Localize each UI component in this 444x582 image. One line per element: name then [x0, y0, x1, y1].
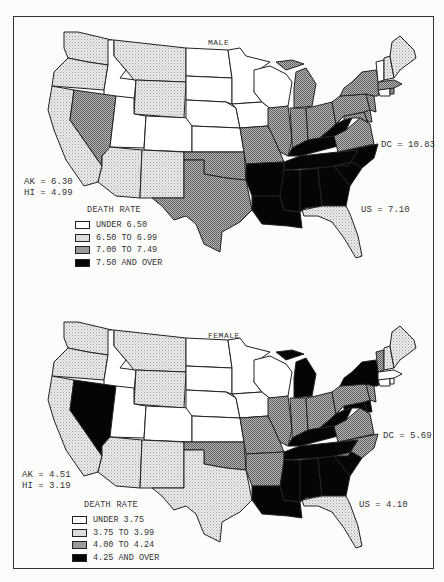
female-legend-item-3: 4.00 TO 4.24 [72, 539, 159, 552]
legend-label: 4.00 TO 4.24 [93, 540, 154, 550]
state-ND [186, 48, 232, 78]
female-legend-title: DEATH RATE [84, 500, 159, 510]
male-legend-item-3: 7.00 TO 7.49 [75, 244, 162, 257]
state-NY [340, 70, 380, 96]
legend-label: UNDER 3.75 [93, 515, 144, 525]
legend-swatch-icon [72, 554, 87, 562]
state-FL [302, 206, 362, 258]
state-KS [192, 416, 244, 442]
legend-label: 4.25 AND OVER [93, 553, 159, 563]
state-MT [114, 330, 186, 372]
state-MS [280, 460, 300, 502]
state-ND [186, 338, 232, 368]
state-VT [376, 60, 384, 82]
male-legend-title: DEATH RATE [87, 205, 162, 215]
legend-swatch-icon [75, 221, 90, 229]
female-ak-note: AK = 4.51 [22, 470, 71, 481]
legend-label: 7.50 AND OVER [96, 258, 162, 268]
state-VT [376, 350, 384, 372]
legend-swatch-icon [72, 541, 87, 549]
legend-label: UNDER 6.50 [96, 220, 147, 230]
female-legend-item-2: 3.75 TO 3.99 [72, 527, 159, 540]
female-hi-note: HI = 3.19 [22, 481, 71, 492]
state-NM [140, 150, 184, 198]
state-ME [390, 326, 416, 368]
male-ak-note: AK = 6.30 [24, 177, 73, 188]
legend-label: 6.50 TO 6.99 [96, 233, 157, 243]
state-MT [114, 40, 186, 82]
female-dc-note: DC = 5.69 [383, 431, 432, 442]
state-WY [134, 370, 186, 408]
legend-swatch-icon [75, 234, 90, 242]
state-MS [280, 170, 300, 212]
state-MA [378, 370, 402, 380]
female-legend: DEATH RATE UNDER 3.75 3.75 TO 3.99 4.00 … [72, 500, 159, 564]
male-legend-item-1: UNDER 6.50 [75, 219, 162, 232]
female-map-title: FEMALE [208, 331, 240, 340]
state-WY [134, 80, 186, 118]
female-legend-item-1: UNDER 3.75 [72, 514, 159, 527]
legend-swatch-icon [72, 529, 87, 537]
legend-label: 7.00 TO 7.49 [96, 245, 157, 255]
female-legend-item-4: 4.25 AND OVER [72, 552, 159, 565]
state-NM [140, 440, 184, 488]
male-us-note: US = 7.10 [361, 205, 410, 216]
male-legend: DEATH RATE UNDER 6.50 6.50 TO 6.99 7.00 … [75, 205, 162, 269]
state-CO [144, 116, 192, 152]
state-SD [186, 366, 232, 394]
state-AR [246, 452, 284, 486]
state-SD [186, 76, 232, 104]
state-CO [144, 406, 192, 442]
state-KS [192, 126, 244, 152]
male-hi-note: HI = 4.99 [24, 188, 73, 199]
male-map-panel: MALE AK = 6.30 HI = 4.99 DC = 10.83 US =… [0, 0, 444, 290]
male-dc-note: DC = 10.83 [381, 140, 435, 151]
legend-swatch-icon [72, 516, 87, 524]
state-AR [246, 162, 284, 196]
male-legend-item-4: 7.50 AND OVER [75, 257, 162, 270]
state-ME [390, 36, 416, 78]
male-map-title: MALE [208, 38, 229, 47]
female-map-panel: FEMALE AK = 4.51 HI = 3.19 DC = 5.69 US … [0, 288, 444, 582]
state-MA [378, 80, 402, 90]
state-AZ [98, 437, 142, 488]
legend-label: 3.75 TO 3.99 [93, 528, 154, 538]
state-AZ [98, 147, 142, 198]
legend-swatch-icon [75, 246, 90, 254]
male-legend-item-2: 6.50 TO 6.99 [75, 232, 162, 245]
female-us-note: US = 4.10 [359, 500, 408, 511]
legend-swatch-icon [75, 259, 90, 267]
state-FL [302, 496, 362, 548]
state-NY [340, 360, 380, 386]
